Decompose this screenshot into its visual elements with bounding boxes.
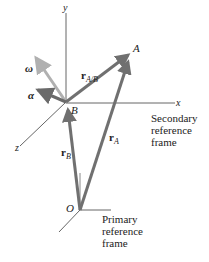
primary-frame-caption: Primary reference frame: [102, 213, 146, 249]
x-axis-label: x: [175, 97, 181, 108]
r-a-label: rA: [109, 131, 119, 146]
alpha-label: α: [28, 89, 35, 101]
point-o-label: O: [66, 202, 74, 214]
r-a-b-label: rA/B: [81, 69, 98, 84]
secondary-frame-caption: Secondary reference frame: [151, 112, 200, 148]
point-b-label: B: [71, 104, 78, 116]
z-axis-label: z: [14, 142, 19, 153]
omega-label: ω: [25, 62, 33, 74]
y-axis-label: y: [62, 2, 68, 13]
point-a-label: A: [132, 42, 140, 54]
reference-frame-diagram: y x z A B O ω α rA/B rB rA Secondary ref…: [0, 0, 209, 262]
r-b-label: rB: [61, 146, 71, 161]
z-axis-line: [20, 102, 66, 146]
